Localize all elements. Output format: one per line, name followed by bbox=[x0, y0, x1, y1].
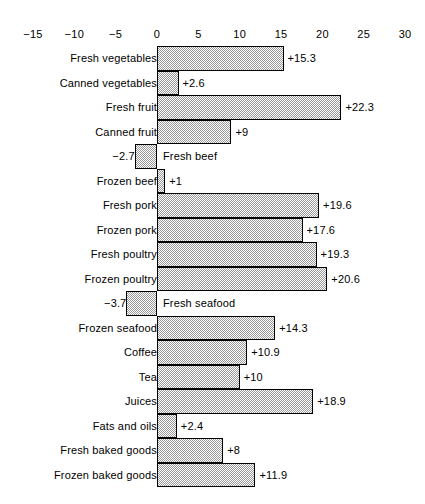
bar-row: Fresh seafood−3.7 bbox=[0, 291, 425, 316]
bar-coffee bbox=[157, 340, 247, 365]
bar-canned-fruit bbox=[157, 120, 231, 145]
x-tick-25: 25 bbox=[344, 26, 384, 42]
bar-row: Tea+10 bbox=[0, 365, 425, 390]
x-tick-15: 15 bbox=[261, 26, 301, 42]
x-tick-30: 30 bbox=[385, 26, 425, 42]
value-label: +8 bbox=[223, 438, 317, 463]
value-label: +10.9 bbox=[247, 340, 341, 365]
category-label: Canned fruit bbox=[0, 120, 161, 145]
category-label: Frozen pork bbox=[0, 218, 161, 243]
category-label: Fresh pork bbox=[0, 193, 161, 218]
value-label: +14.3 bbox=[275, 316, 369, 341]
bar-row: Frozen baked goods+11.9 bbox=[0, 463, 425, 488]
category-label: Fresh fruit bbox=[0, 95, 161, 120]
category-label: Fats and oils bbox=[0, 414, 161, 439]
category-label: Coffee bbox=[0, 340, 161, 365]
value-label: +20.6 bbox=[327, 267, 421, 292]
bar-row: Fresh poultry+19.3 bbox=[0, 242, 425, 267]
bar-fresh-seafood bbox=[126, 291, 157, 316]
bar-row: Fresh pork+19.6 bbox=[0, 193, 425, 218]
bar-row: Juices+18.9 bbox=[0, 389, 425, 414]
bar-fresh-vegetables bbox=[157, 46, 284, 71]
bar-fresh-baked-goods bbox=[157, 438, 223, 463]
x-tick--10: −10 bbox=[54, 26, 94, 42]
value-label: +2.4 bbox=[177, 414, 271, 439]
x-tick-5: 5 bbox=[178, 26, 218, 42]
value-label: +1 bbox=[165, 169, 259, 194]
value-label: −3.7 bbox=[46, 291, 130, 316]
value-label: −2.7 bbox=[55, 144, 139, 169]
bar-row: Fresh fruit+22.3 bbox=[0, 95, 425, 120]
category-label: Frozen poultry bbox=[0, 267, 161, 292]
x-tick-0: 0 bbox=[137, 26, 177, 42]
bar-frozen-baked-goods bbox=[157, 463, 255, 488]
bar-row: Frozen poultry+20.6 bbox=[0, 267, 425, 292]
value-label: +18.9 bbox=[313, 389, 407, 414]
category-label: Frozen beef bbox=[0, 169, 161, 194]
bar-row: Fresh beef−2.7 bbox=[0, 144, 425, 169]
category-label: Fresh baked goods bbox=[0, 438, 161, 463]
x-tick--15: −15 bbox=[13, 26, 53, 42]
bar-chart: −15−10−5051015202530 Fresh vegetables+15… bbox=[0, 0, 425, 504]
plot-area: Fresh vegetables+15.3Canned vegetables+2… bbox=[0, 46, 425, 491]
bar-fresh-poultry bbox=[157, 242, 317, 267]
category-label: Juices bbox=[0, 389, 161, 414]
bar-fresh-fruit bbox=[157, 95, 341, 120]
bar-frozen-poultry bbox=[157, 267, 327, 292]
bar-row: Canned fruit+9 bbox=[0, 120, 425, 145]
value-label: +22.3 bbox=[341, 95, 425, 120]
category-label: Frozen baked goods bbox=[0, 463, 161, 488]
category-label: Frozen seafood bbox=[0, 316, 161, 341]
x-tick-10: 10 bbox=[220, 26, 260, 42]
category-label: Fresh seafood bbox=[158, 291, 363, 316]
bar-row: Frozen seafood+14.3 bbox=[0, 316, 425, 341]
bar-frozen-pork bbox=[157, 218, 303, 243]
value-label: +19.6 bbox=[319, 193, 413, 218]
value-label: +9 bbox=[231, 120, 325, 145]
bar-row: Frozen pork+17.6 bbox=[0, 218, 425, 243]
x-axis-tick-labels: −15−10−5051015202530 bbox=[0, 26, 425, 42]
bar-row: Canned vegetables+2.6 bbox=[0, 71, 425, 96]
category-label: Canned vegetables bbox=[0, 71, 161, 96]
bar-frozen-seafood bbox=[157, 316, 275, 341]
category-label: Tea bbox=[0, 365, 161, 390]
bar-row: Frozen beef+1 bbox=[0, 169, 425, 194]
category-label: Fresh poultry bbox=[0, 242, 161, 267]
bar-tea bbox=[157, 365, 240, 390]
bar-row: Fresh baked goods+8 bbox=[0, 438, 425, 463]
value-label: +11.9 bbox=[255, 463, 349, 488]
bar-fresh-pork bbox=[157, 193, 319, 218]
value-label: +19.3 bbox=[317, 242, 411, 267]
category-label: Fresh vegetables bbox=[0, 46, 161, 71]
category-label: Fresh beef bbox=[158, 144, 363, 169]
value-label: +2.6 bbox=[179, 71, 273, 96]
x-tick--5: −5 bbox=[96, 26, 136, 42]
bar-row: Fats and oils+2.4 bbox=[0, 414, 425, 439]
bar-juices bbox=[157, 389, 313, 414]
bar-row: Coffee+10.9 bbox=[0, 340, 425, 365]
x-tick-20: 20 bbox=[302, 26, 342, 42]
value-label: +17.6 bbox=[303, 218, 397, 243]
value-label: +15.3 bbox=[284, 46, 378, 71]
bar-row: Fresh vegetables+15.3 bbox=[0, 46, 425, 71]
value-label: +10 bbox=[240, 365, 334, 390]
